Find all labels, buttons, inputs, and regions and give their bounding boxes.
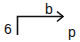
start-label: 6: [4, 22, 12, 36]
edge-label: b: [45, 2, 53, 16]
diagram: 6 b p: [0, 0, 80, 42]
end-label: p: [68, 25, 76, 39]
connector-line: [18, 17, 64, 36]
